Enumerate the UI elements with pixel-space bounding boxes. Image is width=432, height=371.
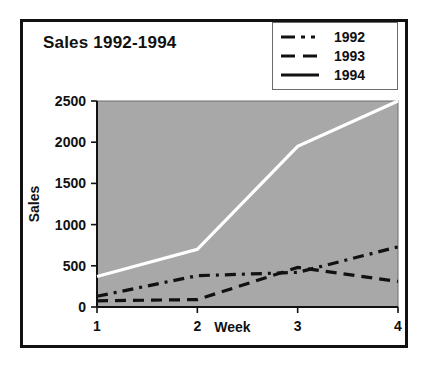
- chart-plot-svg: 05001000150020002500 1234 SalesWeek: [0, 0, 432, 371]
- x-tick-label: 3: [294, 318, 302, 334]
- y-tick-label: 1500: [55, 175, 86, 191]
- y-axis-tick-labels: 05001000150020002500: [55, 93, 86, 315]
- x-axis-title: Week: [214, 319, 251, 335]
- y-tick-label: 2000: [55, 134, 86, 150]
- y-tick-label: 500: [63, 258, 87, 274]
- y-tick-label: 2500: [55, 93, 86, 109]
- y-tick-label: 0: [78, 299, 86, 315]
- chart-page: Sales 1992-1994 1992 1993: [0, 0, 432, 371]
- x-tick-label: 2: [193, 318, 201, 334]
- y-tick-label: 1000: [55, 217, 86, 233]
- plot-area-container: 05001000150020002500 1234 SalesWeek: [0, 0, 432, 371]
- y-axis-title: Sales: [26, 185, 42, 222]
- x-tick-label: 1: [93, 318, 101, 334]
- x-tick-label: 4: [394, 318, 402, 334]
